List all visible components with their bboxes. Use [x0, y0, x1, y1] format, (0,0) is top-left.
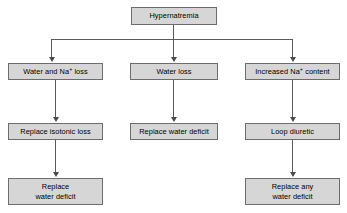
hypernatremia-flowchart: Hypernatremia Water and Na+ loss Water l…: [0, 0, 347, 213]
node-water-and-na-loss[interactable]: Water and Na+ loss: [8, 63, 103, 80]
node-replace-water-deficit-bottom[interactable]: Replace water deficit: [8, 178, 103, 205]
arrow-into-loop-diuretic: [290, 117, 296, 122]
connector-water-and-na-loss-to-replace-isotonic-loss: [55, 80, 56, 117]
connector-bus-to-right-branch: [292, 39, 293, 57]
node-replace-any-water-deficit-label: Replace any water deficit: [246, 182, 339, 200]
connector-increased-na-content-to-loop-diuretic: [292, 80, 293, 117]
connector-water-loss-to-replace-water-deficit: [173, 80, 174, 117]
node-hypernatremia-label: Hypernatremia: [132, 11, 216, 20]
node-loop-diuretic-label: Loop diuretic: [246, 127, 339, 136]
node-increased-na-content-label-post: content: [303, 67, 330, 76]
node-replace-isotonic-loss-label: Replace isotonic loss: [9, 127, 102, 136]
node-replace-water-deficit-bottom-label: Replace water deficit: [9, 182, 102, 200]
connector-bus-to-middle-branch: [173, 39, 174, 57]
node-loop-diuretic[interactable]: Loop diuretic: [245, 123, 340, 140]
connector-loop-diuretic-to-replace-any-water-deficit: [292, 140, 293, 172]
node-replace-isotonic-loss[interactable]: Replace isotonic loss: [8, 123, 103, 140]
node-replace-water-deficit[interactable]: Replace water deficit: [130, 123, 218, 140]
arrow-into-water-loss: [171, 57, 177, 62]
arrow-into-replace-any-water-deficit: [290, 172, 296, 177]
connector-root-to-bus: [173, 25, 174, 39]
arrow-into-replace-isotonic-loss: [53, 117, 59, 122]
connector-bus-to-left-branch: [51, 39, 52, 57]
node-replace-water-deficit-label: Replace water deficit: [131, 127, 217, 136]
node-replace-any-water-deficit[interactable]: Replace any water deficit: [245, 178, 340, 205]
node-increased-na-content-label: Increased Na+ content: [246, 67, 339, 76]
node-water-and-na-loss-label-pre: Water and Na: [23, 67, 69, 76]
connector-horizontal-bus: [51, 39, 293, 40]
arrow-into-replace-water-deficit: [171, 117, 177, 122]
node-water-loss-label: Water loss: [131, 67, 217, 76]
node-water-loss[interactable]: Water loss: [130, 63, 218, 80]
arrow-into-increased-na-content: [290, 57, 296, 62]
node-increased-na-content[interactable]: Increased Na+ content: [245, 63, 340, 80]
node-hypernatremia[interactable]: Hypernatremia: [131, 7, 217, 25]
node-water-and-na-loss-label-post: loss: [72, 67, 87, 76]
arrow-into-replace-water-deficit-bottom: [53, 172, 59, 177]
node-water-and-na-loss-label: Water and Na+ loss: [9, 67, 102, 76]
connector-replace-isotonic-loss-to-replace-water-deficit: [55, 140, 56, 172]
node-increased-na-content-label-pre: Increased Na: [255, 67, 300, 76]
arrow-into-water-and-na-loss: [49, 57, 55, 62]
